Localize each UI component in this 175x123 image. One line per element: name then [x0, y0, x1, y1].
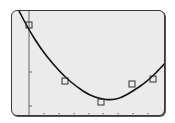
x-axis-tick	[59, 113, 60, 114]
x-axis-tick	[74, 113, 75, 114]
x-axis-tick	[103, 113, 104, 114]
x-axis-tick	[148, 113, 149, 114]
x-axis-tick	[44, 113, 45, 114]
data-point-square	[129, 81, 135, 87]
x-axis-tick	[133, 113, 134, 114]
scatter-plot-with-regression	[12, 11, 164, 115]
x-axis-tick	[89, 113, 90, 114]
regression-curve	[19, 11, 164, 100]
x-axis-tick	[118, 113, 119, 114]
calculator-graph-screen	[11, 10, 165, 116]
